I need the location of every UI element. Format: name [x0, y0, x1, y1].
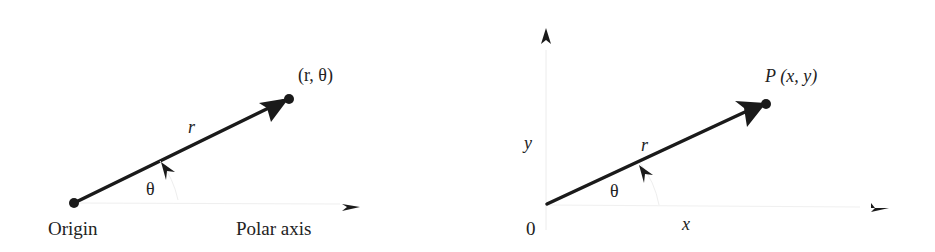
origin-dot [69, 198, 79, 208]
right-cartesian-diagram [541, 28, 889, 230]
radius-vector [74, 101, 283, 203]
left-polar-diagram [69, 94, 360, 211]
angle-label: θ [146, 180, 155, 198]
polar-axis-line [74, 203, 340, 204]
angle-label: θ [610, 182, 619, 200]
angle-arrowhead-icon [161, 162, 175, 180]
point-dot [284, 94, 294, 104]
origin-zero-label: 0 [526, 219, 536, 238]
x-axis-arrowhead-icon [868, 203, 889, 212]
diagram-canvas [0, 0, 935, 252]
point-p-text: P (x, y) [765, 66, 817, 86]
point-dot [761, 99, 771, 109]
x-label: x [682, 215, 690, 233]
point-p-label: P (x, y) [765, 67, 817, 85]
y-label: y [524, 134, 532, 152]
radius-label: r [188, 118, 195, 136]
radius-label: r [641, 136, 648, 154]
polar-axis-arrowhead-icon [342, 204, 360, 211]
origin-label: Origin [48, 219, 98, 238]
x-axis-line [546, 205, 860, 207]
polar-axis-label: Polar axis [236, 219, 311, 238]
y-axis-arrowhead-icon [541, 28, 551, 44]
radius-vector [547, 105, 760, 204]
point-label: (r, θ) [298, 66, 333, 84]
